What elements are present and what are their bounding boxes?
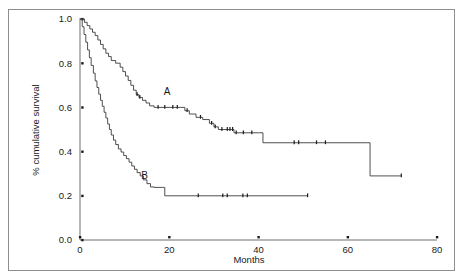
survival-curve-b <box>80 19 308 196</box>
x-tick-marker <box>257 236 259 238</box>
y-tick-label: 0.0 <box>59 234 72 245</box>
x-tick-marker <box>347 236 349 238</box>
x-tick-marker <box>79 236 81 238</box>
x-axis-title: Months <box>233 254 264 265</box>
x-tick-label: 60 <box>342 244 353 255</box>
y-tick-marker <box>81 239 83 241</box>
censor-marks-group <box>137 92 401 197</box>
figure-container: 0.00.20.40.60.81.0020406080 AB Months % … <box>0 0 464 280</box>
curve-annotation-b: B <box>141 170 148 181</box>
y-axis-title: % cumulative survival <box>30 84 41 175</box>
y-tick-label: 0.2 <box>59 190 72 201</box>
x-tick-label: 80 <box>432 244 443 255</box>
y-tick-label: 0.8 <box>59 58 72 69</box>
survival-curve-a <box>80 19 401 176</box>
x-tick-marker <box>168 236 170 238</box>
survival-chart: 0.00.20.40.60.81.0020406080 AB Months % … <box>0 0 464 280</box>
x-tick-marker <box>436 236 438 238</box>
y-tick-marker <box>81 151 83 153</box>
x-tick-label: 0 <box>77 244 82 255</box>
y-tick-marker <box>81 106 83 108</box>
ticks-group <box>79 18 438 241</box>
y-tick-label: 0.4 <box>59 146 72 157</box>
x-tick-label: 20 <box>164 244 175 255</box>
y-tick-label: 1.0 <box>59 13 72 24</box>
curves-group <box>80 19 401 196</box>
axes-group <box>80 18 437 240</box>
y-tick-label: 0.6 <box>59 102 72 113</box>
curve-annotation-a: A <box>164 86 171 97</box>
y-tick-marker <box>81 195 83 197</box>
y-tick-marker <box>81 62 83 64</box>
tick-labels-group: 0.00.20.40.60.81.0020406080 <box>59 13 443 255</box>
